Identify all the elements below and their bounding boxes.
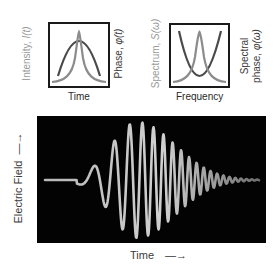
time-caption: Time xyxy=(68,91,90,102)
chirped-pulse-trace xyxy=(45,123,259,238)
spectrum-axis-label: Spectrum, S(ω) xyxy=(150,9,161,99)
frequency-caption: Frequency xyxy=(176,91,223,102)
intensity-axis-label: Intensity, I(t) xyxy=(21,14,32,94)
time-domain-curves xyxy=(50,24,108,86)
electric-field-plot xyxy=(37,116,266,243)
electric-field-axis-label: Electric Field —→ xyxy=(12,130,24,226)
time-arrow-icon: —→ xyxy=(165,249,187,261)
frequency-domain-plot xyxy=(169,23,230,88)
spectral-phase-axis-label: Spectral phase, φ(ω) xyxy=(239,11,263,101)
phase-curve xyxy=(58,41,100,76)
intensity-curve xyxy=(52,32,106,82)
time-domain-plot xyxy=(48,22,110,88)
phase-axis-label: Phase, φ(t) xyxy=(113,14,124,94)
time-axis-label: Time —→ xyxy=(130,249,187,261)
electric-field-waveform xyxy=(37,116,266,243)
frequency-domain-curves xyxy=(171,25,228,86)
electric-field-arrow-icon: —→ xyxy=(12,132,24,154)
